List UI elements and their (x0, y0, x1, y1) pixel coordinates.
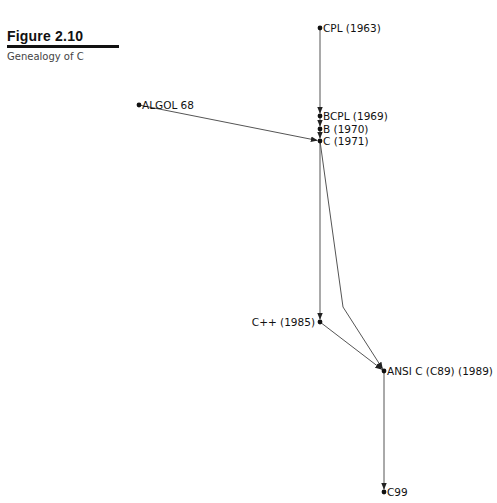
node-label-c: C (1971) (323, 135, 369, 147)
node-label-b: B (1970) (323, 123, 368, 135)
node-dot-b (318, 127, 323, 132)
node-dot-ansic (382, 369, 387, 374)
node-dot-algol68 (137, 103, 142, 108)
node-dot-c99 (382, 490, 387, 495)
node-label-cpp: C++ (1985) (252, 316, 315, 328)
node-dot-c (318, 139, 323, 144)
edge-cpp-to-ansic (320, 322, 382, 369)
node-dot-bcpl (318, 114, 323, 119)
node-label-bcpl: BCPL (1969) (323, 110, 388, 122)
genealogy-diagram (0, 0, 497, 503)
nodes (137, 26, 387, 495)
node-label-algol68: ALGOL 68 (142, 99, 194, 111)
node-dot-cpp (318, 320, 323, 325)
edges (139, 28, 384, 489)
node-label-cpl: CPL (1963) (323, 22, 381, 34)
node-label-c99: C99 (387, 486, 408, 498)
node-label-ansic: ANSI C (C89) (1989) (387, 365, 493, 377)
edge-c-to-ansic (320, 141, 382, 369)
node-dot-cpl (318, 26, 323, 31)
